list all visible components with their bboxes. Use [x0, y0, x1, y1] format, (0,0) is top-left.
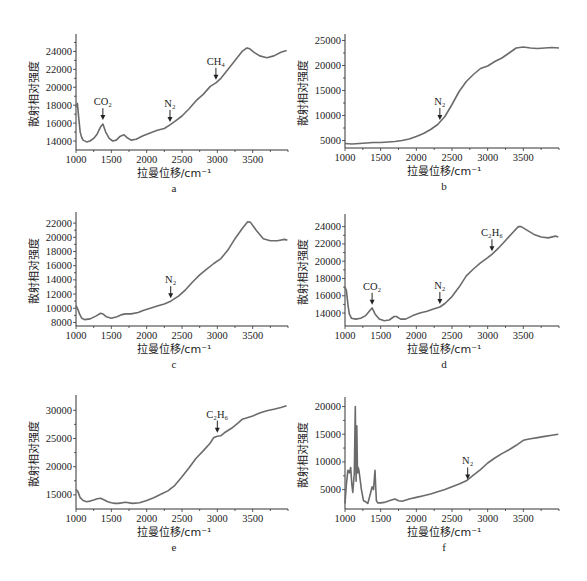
x-tick-label: 3500	[513, 330, 534, 341]
y-tick-label: 22000	[46, 64, 72, 75]
y-tick-label: 20000	[46, 461, 72, 472]
axes: 1000150020002500300035001500020000250003…	[46, 395, 288, 524]
x-tick-label: 1500	[101, 513, 122, 524]
y-tick-label: 10000	[315, 110, 341, 121]
x-axis-label: 拉曼位移/cm⁻¹	[407, 342, 482, 356]
annotation-label: CO₂	[94, 96, 113, 107]
panel-caption: f	[442, 541, 446, 553]
x-tick-label: 1000	[335, 513, 356, 524]
y-tick-label: 10000	[46, 303, 72, 314]
y-axis-label: 散射相对强度	[27, 238, 41, 304]
annotation-label: C₂H₆	[481, 227, 503, 238]
y-tick-label: 14000	[315, 308, 341, 319]
chart-panel-a: 1000150020002500300035001400016000180002…	[0, 0, 293, 195]
arrow-down-icon	[167, 117, 172, 122]
x-axis-label: 拉曼位移/cm⁻¹	[407, 525, 482, 539]
x-tick-label: 3500	[242, 330, 263, 341]
peak-annotation: N₂	[164, 98, 176, 122]
y-tick-label: 16000	[46, 260, 72, 271]
x-tick-label: 1000	[335, 152, 356, 163]
peak-annotation: N₂	[434, 280, 446, 304]
peak-annotation: CO₂	[94, 96, 113, 120]
spectrum-line	[345, 227, 558, 321]
x-tick-label: 1500	[101, 330, 122, 341]
x-tick-label: 3000	[477, 330, 498, 341]
x-tick-label: 3500	[242, 513, 263, 524]
x-axis-label: 拉曼位移/cm⁻¹	[137, 166, 212, 180]
chart-panel-f: 1000150020002500300035005000100001500020…	[293, 385, 587, 581]
spectrum-line	[345, 47, 559, 144]
x-tick-label: 1500	[370, 152, 391, 163]
x-tick-label: 1000	[335, 330, 356, 341]
chart-svg: 1000150020002500300035001400016000180002…	[293, 190, 587, 385]
x-tick-label: 3000	[207, 154, 228, 165]
x-tick-label: 2500	[442, 513, 463, 524]
x-tick-label: 2000	[406, 330, 427, 341]
y-tick-label: 25000	[315, 35, 341, 46]
axes: 1000150020002500300035001400016000180002…	[315, 214, 559, 341]
chart-svg: 1000150020002500300035005000100001500020…	[293, 385, 587, 581]
arrow-down-icon	[370, 300, 375, 305]
y-tick-label: 5000	[320, 484, 341, 495]
annotation-label: CH₄	[207, 56, 226, 67]
chart-svg: 1000150020002500300035005000100001500020…	[293, 0, 587, 195]
y-axis-label: 散射相对强度	[296, 60, 310, 126]
y-tick-label: 18000	[46, 246, 72, 257]
spectrum-line	[76, 48, 287, 142]
x-tick-label: 2000	[136, 513, 157, 524]
annotation-label: C₂H₆	[206, 409, 228, 420]
x-tick-label: 2500	[442, 330, 463, 341]
y-tick-label: 10000	[315, 456, 341, 467]
annotation-label: N₂	[434, 96, 446, 107]
y-tick-label: 14000	[46, 274, 72, 285]
annotation-label: CO₂	[363, 281, 382, 292]
x-tick-label: 3000	[207, 513, 228, 524]
y-tick-label: 22000	[315, 238, 341, 249]
y-tick-label: 12000	[46, 289, 72, 300]
arrow-down-icon	[100, 115, 105, 120]
y-axis-label: 散射相对强度	[296, 422, 310, 488]
y-tick-label: 20000	[315, 60, 341, 71]
x-tick-label: 3500	[513, 152, 534, 163]
x-axis-label: 拉曼位移/cm⁻¹	[407, 164, 482, 178]
chart-svg: 1000150020002500300035008000100001200014…	[0, 190, 293, 385]
x-tick-label: 2000	[406, 513, 427, 524]
chart-svg: 1000150020002500300035001400016000180002…	[0, 0, 293, 195]
annotation-label: N₂	[164, 98, 176, 109]
peak-annotation: C₂H₆	[206, 409, 228, 433]
arrow-down-icon	[437, 299, 442, 304]
x-tick-label: 2500	[172, 154, 193, 165]
y-tick-label: 8000	[51, 317, 72, 328]
y-tick-label: 16000	[46, 118, 72, 129]
x-axis-label: 拉曼位移/cm⁻¹	[137, 525, 212, 539]
y-tick-label: 24000	[46, 46, 72, 57]
panel-caption: d	[441, 358, 447, 370]
y-tick-label: 24000	[315, 221, 341, 232]
arrow-down-icon	[168, 293, 173, 298]
y-tick-label: 14000	[46, 136, 72, 147]
x-tick-label: 2000	[136, 330, 157, 341]
y-tick-label: 15000	[46, 489, 72, 500]
y-tick-label: 18000	[315, 273, 341, 284]
y-tick-label: 22000	[46, 218, 72, 229]
x-axis-label: 拉曼位移/cm⁻¹	[137, 342, 212, 356]
spectrum-line	[345, 407, 558, 504]
x-tick-label: 1000	[66, 513, 87, 524]
y-axis-label: 散射相对强度	[27, 421, 41, 487]
panel-caption: c	[172, 358, 177, 370]
x-tick-label: 1000	[66, 154, 87, 165]
y-tick-label: 15000	[315, 85, 341, 96]
chart-panel-d: 1000150020002500300035001400016000180002…	[293, 190, 587, 385]
x-tick-label: 3500	[513, 513, 534, 524]
y-tick-label: 20000	[46, 232, 72, 243]
y-tick-label: 18000	[46, 100, 72, 111]
chart-panel-c: 1000150020002500300035008000100001200014…	[0, 190, 293, 385]
y-axis-label: 散射相对强度	[296, 239, 310, 305]
x-tick-label: 3500	[242, 154, 263, 165]
y-tick-label: 20000	[46, 82, 72, 93]
spectrum-line	[76, 406, 287, 504]
x-tick-label: 1000	[66, 330, 87, 341]
y-tick-label: 20000	[315, 401, 341, 412]
annotation-label: N₂	[434, 280, 446, 291]
x-tick-label: 3000	[477, 152, 498, 163]
